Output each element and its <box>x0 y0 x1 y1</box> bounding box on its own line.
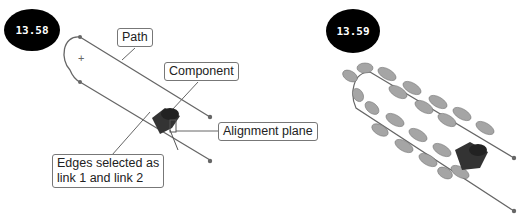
component-icon <box>455 142 488 170</box>
figure-13-59: 13.59 <box>0 0 527 216</box>
chain-links-diagram <box>0 0 527 216</box>
figure-number-badge: 13.59 <box>326 9 380 53</box>
